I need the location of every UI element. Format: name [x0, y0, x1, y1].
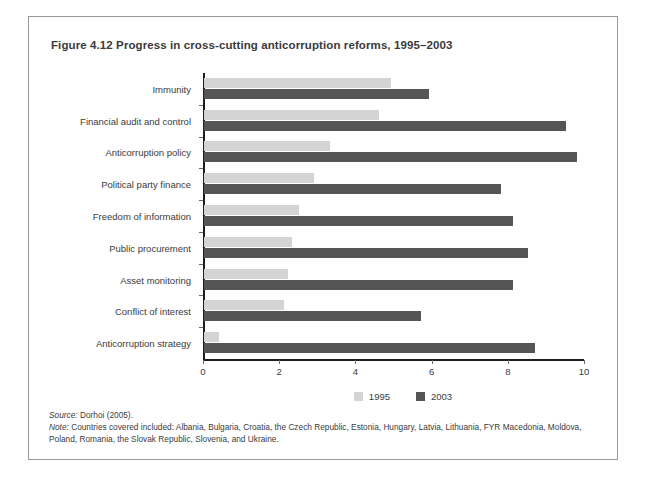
legend-swatch-icon	[354, 392, 363, 401]
y-axis-tick	[199, 168, 203, 169]
y-axis-tick	[199, 232, 203, 233]
x-axis-tick	[432, 360, 433, 364]
category-label: Anticorruption strategy	[41, 338, 191, 349]
x-axis-tick	[584, 360, 585, 364]
y-axis-tick	[199, 105, 203, 106]
source-line: Source: Dorhoi (2005).	[49, 409, 601, 421]
source-value: Dorhoi (2005).	[78, 410, 133, 420]
x-axis-tick-label: 0	[200, 366, 205, 377]
x-axis-tick	[355, 360, 356, 364]
bar-2003-asset-monitoring	[204, 280, 513, 290]
y-axis-tick	[199, 200, 203, 201]
y-axis-tick	[199, 264, 203, 265]
chart-legend: 19952003	[203, 391, 603, 402]
bar-1995-immunity	[204, 78, 391, 88]
bar-2003-public-procurement	[204, 248, 528, 258]
legend-item-1995: 1995	[354, 391, 390, 402]
category-label: Freedom of information	[41, 211, 191, 222]
x-axis-tick	[508, 360, 509, 364]
y-axis-tick	[199, 327, 203, 328]
bar-2003-conflict-of-interest	[204, 311, 421, 321]
x-axis-tick	[279, 360, 280, 364]
figure-card: Figure 4.12 Progress in cross-cutting an…	[28, 16, 618, 460]
category-label: Political party finance	[41, 179, 191, 190]
bar-1995-anticorruption-policy	[204, 141, 330, 151]
bar-1995-financial-audit-and-control	[204, 110, 379, 120]
category-label: Conflict of interest	[41, 306, 191, 317]
category-label: Public procurement	[41, 242, 191, 253]
x-axis-tick	[203, 360, 204, 364]
x-axis-tick-label: 2	[277, 366, 282, 377]
source-label: Source:	[49, 410, 78, 420]
legend-label: 2003	[431, 391, 452, 402]
bar-1995-political-party-finance	[204, 173, 314, 183]
bar-2003-financial-audit-and-control	[204, 121, 566, 131]
category-label: Immunity	[41, 83, 191, 94]
bar-2003-immunity	[204, 89, 429, 99]
note-line: Note: Countries covered included: Albani…	[49, 421, 601, 445]
bar-1995-anticorruption-strategy	[204, 332, 219, 342]
y-axis-tick	[199, 295, 203, 296]
x-axis-tick-label: 6	[429, 366, 434, 377]
bar-1995-asset-monitoring	[204, 269, 288, 279]
chart-axes: 0246810	[203, 73, 603, 373]
category-label: Financial audit and control	[41, 115, 191, 126]
bar-1995-public-procurement	[204, 237, 292, 247]
x-axis-tick-label: 4	[353, 366, 358, 377]
bar-2003-political-party-finance	[204, 184, 501, 194]
legend-label: 1995	[369, 391, 390, 402]
y-axis-tick	[199, 137, 203, 138]
category-label: Anticorruption policy	[41, 147, 191, 158]
bar-2003-anticorruption-strategy	[204, 343, 535, 353]
category-label: Asset monitoring	[41, 274, 191, 285]
chart-plot-area: ImmunityFinancial audit and controlAntic…	[47, 73, 603, 373]
note-label: Note:	[49, 422, 69, 432]
bar-1995-freedom-of-information	[204, 205, 299, 215]
figure-title: Figure 4.12 Progress in cross-cutting an…	[51, 39, 452, 51]
legend-swatch-icon	[416, 392, 425, 401]
bar-1995-conflict-of-interest	[204, 300, 284, 310]
figure-footnotes: Source: Dorhoi (2005). Note: Countries c…	[49, 409, 601, 445]
legend-item-2003: 2003	[416, 391, 452, 402]
x-axis-tick-label: 10	[579, 366, 590, 377]
category-axis-labels: ImmunityFinancial audit and controlAntic…	[47, 73, 197, 359]
note-value: Countries covered included: Albania, Bul…	[49, 422, 582, 444]
x-axis-tick-label: 8	[505, 366, 510, 377]
x-axis-line	[203, 359, 584, 361]
bar-2003-anticorruption-policy	[204, 152, 577, 162]
bar-2003-freedom-of-information	[204, 216, 513, 226]
